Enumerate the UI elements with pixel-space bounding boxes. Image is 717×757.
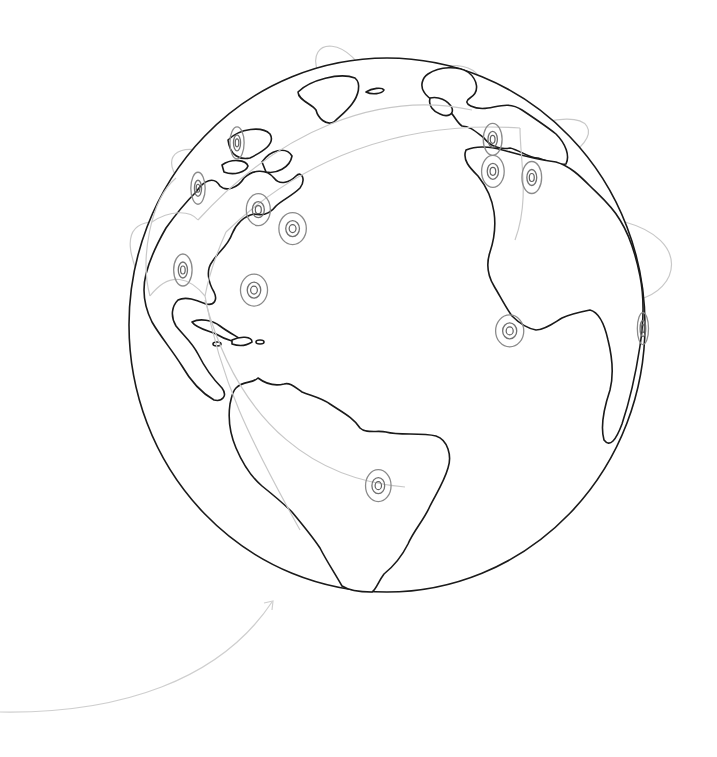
puerto-rico-landmass (256, 340, 264, 344)
arrow-curve (0, 602, 272, 712)
hispaniola-landmass (232, 337, 252, 345)
pointer-arrow (0, 601, 273, 712)
globe-illustration (0, 0, 717, 757)
